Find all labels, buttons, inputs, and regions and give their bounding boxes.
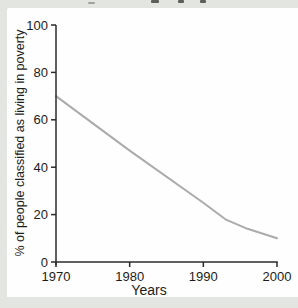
y-tick-label: 40 <box>34 160 48 175</box>
y-tick-label: 100 <box>26 18 48 33</box>
caption-fragment <box>200 0 206 3</box>
poverty-line-chart: 0204060801001970198019902000 Years % of … <box>7 8 298 297</box>
y-tick-label: 80 <box>34 65 48 80</box>
y-tick-label: 0 <box>41 255 48 270</box>
x-tick-label: 1990 <box>189 269 218 284</box>
chart-panel: 0204060801001970198019902000 Years % of … <box>7 8 298 297</box>
caption-fragment <box>88 2 95 4</box>
y-tick-label: 60 <box>34 112 48 127</box>
poverty-trend-line <box>56 96 277 238</box>
x-axis-title: Years <box>131 282 166 297</box>
y-axis-title: % of people classified as living in pove… <box>13 29 27 257</box>
caption-fragment <box>151 0 159 3</box>
figure-crop: 0204060801001970198019902000 Years % of … <box>0 0 298 308</box>
axis-ticks: 0204060801001970198019902000 <box>26 18 291 285</box>
x-tick-label: 2000 <box>263 269 292 284</box>
x-tick-label: 1970 <box>42 269 71 284</box>
cropped-caption-fragments <box>0 0 298 8</box>
y-tick-label: 20 <box>34 207 48 222</box>
caption-fragment <box>178 0 184 3</box>
